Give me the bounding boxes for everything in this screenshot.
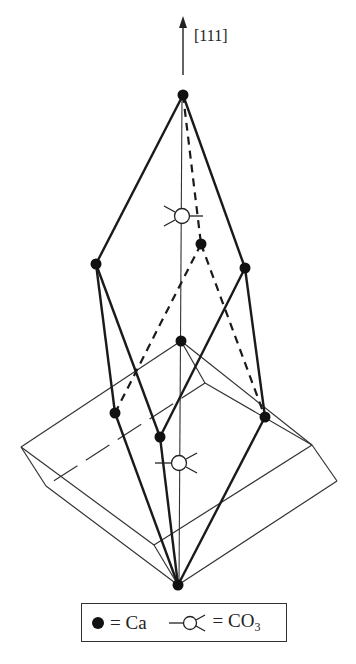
ca-dot-icon	[92, 617, 104, 629]
ca-atom	[196, 239, 207, 250]
hidden-edges	[115, 95, 265, 417]
ca-atom	[178, 90, 189, 101]
ca-atoms	[91, 90, 271, 591]
ca-atom	[155, 432, 166, 443]
legend: = Ca = CO3	[81, 603, 287, 642]
calcite-structure-diagram	[0, 0, 356, 664]
ca-atom	[110, 408, 121, 419]
axis-arrow	[179, 16, 187, 75]
ca-atom	[91, 259, 102, 270]
legend-co3-label: = CO3	[213, 610, 261, 635]
legend-item-ca: = Ca	[82, 612, 147, 634]
axis-label: [111]	[194, 27, 227, 45]
legend-item-co3: = CO3	[147, 610, 261, 635]
legend-ca-label: = Ca	[110, 612, 147, 634]
ca-atom	[176, 336, 187, 347]
ca-atom	[240, 263, 251, 274]
ca-atom	[260, 412, 271, 423]
ca-atom	[173, 580, 184, 591]
co3-symbol-icon	[169, 613, 207, 633]
